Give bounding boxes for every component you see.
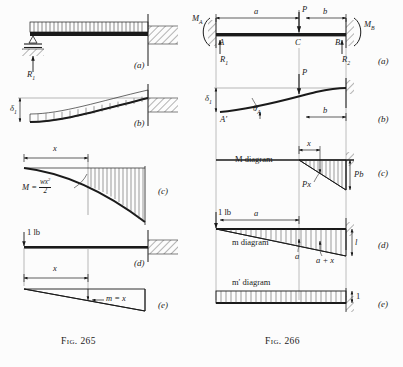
label-unit-load: 1 lb — [27, 228, 40, 237]
figure-266: MA MB a b P A C B R1 R2 (a) δ1 θA A′ P b… — [196, 0, 403, 367]
figure-266-drawing — [196, 0, 403, 330]
label-ordinate-a: a — [295, 252, 299, 261]
label-ordinate-pb: Pb — [354, 170, 363, 179]
figure-caption-266: Fig. 266 — [265, 336, 300, 346]
label-reaction-r2: R2 — [342, 55, 350, 66]
label-node-a: A — [219, 38, 224, 47]
panel-label-e: (e) — [378, 299, 388, 309]
label-span-b: b — [323, 7, 327, 16]
label-load-p-b: P — [302, 68, 307, 77]
panel-label-e: (e) — [158, 300, 168, 310]
panel-a-diagram — [203, 10, 361, 300]
label-span-l: l — [355, 238, 357, 247]
panel-label-d: (d) — [134, 258, 145, 268]
panel-e-diagram — [24, 274, 145, 311]
label-distance-x: x — [307, 139, 311, 148]
label-rotation-theta-a: θA — [253, 104, 261, 115]
label-distance-x-e: x — [53, 264, 57, 273]
label-node-b: B — [335, 38, 340, 47]
label-load-p: P — [302, 5, 307, 14]
label-distance-x: x — [53, 144, 57, 153]
label-deflection-delta1: δ1 — [205, 94, 212, 105]
label-moment-equation: M = wx2 2 — [22, 178, 51, 196]
label-span-a-d: a — [254, 209, 258, 218]
panel-d-diagram — [24, 230, 178, 296]
panel-a-diagram — [22, 14, 178, 72]
label-m-diagram-title-d: m diagram — [232, 238, 269, 247]
label-node-c: C — [295, 38, 301, 47]
moment-fraction: wx2 2 — [39, 178, 51, 196]
label-moment-ma: MA — [192, 14, 203, 25]
panel-c-diagram — [216, 146, 354, 190]
panel-label-c: (c) — [158, 186, 168, 196]
panel-label-d: (d) — [378, 240, 389, 250]
figure-caption-265: Fig. 265 — [61, 336, 96, 346]
label-reaction-r1: R1 — [220, 55, 228, 66]
label-ordinate-a-plus-x: a + x — [316, 256, 334, 265]
label-deflection-delta1: δ1 — [10, 104, 17, 115]
panel-label-b: (b) — [134, 118, 145, 128]
label-ordinate-unit: 1 — [356, 292, 360, 301]
panel-d-diagram — [216, 212, 354, 256]
label-moment-mb: MB — [364, 20, 375, 31]
panel-label-a: (a) — [378, 56, 389, 66]
label-span-a: a — [254, 7, 258, 16]
figure-265: R1 (a) δ1 (b) x M = wx2 2 (c) 1 lb (d) x… — [0, 0, 196, 367]
label-unit-load: 1 lb — [218, 208, 231, 217]
panel-label-a: (a) — [134, 60, 145, 70]
panel-label-c: (c) — [378, 168, 388, 178]
label-node-a-prime: A′ — [220, 115, 227, 124]
figure-265-drawing — [0, 0, 196, 330]
label-m-prime-diagram-title: m′ diagram — [232, 278, 270, 287]
label-ordinate-px: Px — [302, 180, 311, 189]
panel-b-diagram — [18, 84, 178, 126]
label-unit-moment: m = x — [106, 294, 126, 303]
panel-b-diagram — [214, 74, 354, 121]
panel-label-b: (b) — [378, 114, 389, 124]
panel-e-diagram — [216, 288, 354, 312]
label-m-diagram-title: M diagram — [235, 155, 273, 164]
fraction-denominator: 2 — [39, 188, 51, 196]
label-reaction-r1: R1 — [27, 70, 35, 81]
label-span-b-b: b — [323, 106, 327, 115]
